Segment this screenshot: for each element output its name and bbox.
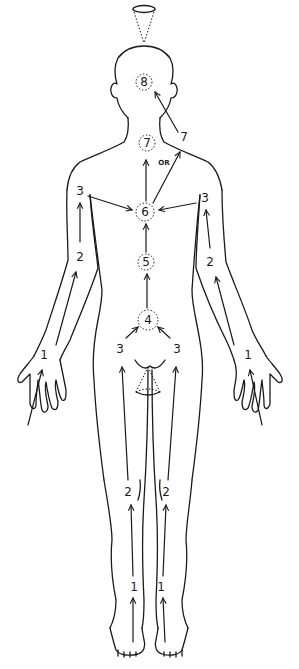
arrow-left-3-to-6	[88, 196, 132, 210]
neck-shoulder-left	[67, 118, 128, 190]
groin-curve	[135, 360, 165, 368]
arrow-right-1-to-2	[163, 505, 166, 576]
right-toes	[164, 650, 182, 657]
crown-cone-side-left	[133, 9, 144, 43]
arrow-right-3-to-6	[159, 203, 196, 210]
right-hand	[234, 356, 282, 412]
left-hand	[18, 356, 66, 412]
left-leg-outer	[104, 480, 116, 628]
neck-shoulder-right	[160, 118, 222, 190]
right-arm-point-3: 3	[201, 191, 209, 205]
right-ankle-point-1: 1	[157, 580, 165, 594]
right-leg-outer	[182, 480, 192, 628]
arrow-right-2-to-3	[206, 210, 210, 248]
left-leg-flow: 1 2 3	[116, 327, 138, 642]
center-7: 7	[139, 135, 155, 151]
crown-cone-side-right	[144, 9, 155, 43]
arrow-right-foot-to-1	[163, 598, 165, 642]
central-flow-arrows	[146, 92, 180, 308]
arrow-left-2-to-3	[122, 367, 128, 480]
center-6-label: 6	[141, 205, 149, 219]
center-5: 5	[138, 254, 154, 270]
center-6: 6	[136, 203, 154, 221]
arrow-left-1-to-2	[131, 505, 133, 576]
right-foot	[155, 628, 188, 655]
arrow-right-1-to-2	[216, 277, 234, 345]
center-8-label: 8	[140, 75, 148, 89]
right-hip-point-3: 3	[173, 342, 181, 356]
arrow-right-2-to-3	[168, 367, 176, 480]
center-4-label: 4	[144, 313, 152, 327]
or-label: OR	[158, 159, 170, 167]
center-4: 4	[138, 310, 158, 330]
root-cone-side-right	[148, 367, 160, 392]
root-cone-side-left	[136, 367, 148, 392]
left-leg-inner	[142, 370, 148, 628]
left-arm-point-3: 3	[76, 184, 84, 198]
arrow-left-3-to-4	[126, 327, 138, 338]
left-arm-outer	[34, 190, 68, 356]
crown-cone	[133, 6, 155, 44]
right-arm-point-1: 1	[244, 348, 252, 362]
arrow-right-3-to-4	[158, 327, 170, 338]
left-hip-point-3: 3	[116, 342, 124, 356]
center-8: 8	[136, 74, 152, 90]
right-leg-flow: 1 2 3	[157, 327, 181, 642]
right-arm-outer	[222, 190, 266, 356]
left-knee-line	[138, 480, 140, 500]
arrow-alt7-to-8	[155, 92, 178, 132]
left-arm-flow: 1 2 3	[28, 184, 132, 425]
crown-cone-rim	[133, 6, 155, 13]
torso-left	[90, 195, 104, 480]
right-arm-inner	[196, 195, 234, 360]
right-knee-point-2: 2	[162, 485, 170, 499]
body-energy-diagram: 8 7 6 5 4 7 OR 1 2 3 1 2 3	[0, 0, 299, 669]
left-arm-point-2: 2	[76, 250, 84, 264]
left-foot	[110, 628, 145, 655]
left-arm-point-1: 1	[40, 348, 48, 362]
center-5-label: 5	[142, 255, 150, 269]
right-arm-point-2: 2	[206, 255, 214, 269]
left-knee-point-2: 2	[124, 485, 132, 499]
left-ankle-point-1: 1	[130, 580, 138, 594]
alt-7-label: 7	[180, 130, 188, 144]
center-7-label: 7	[143, 136, 151, 150]
